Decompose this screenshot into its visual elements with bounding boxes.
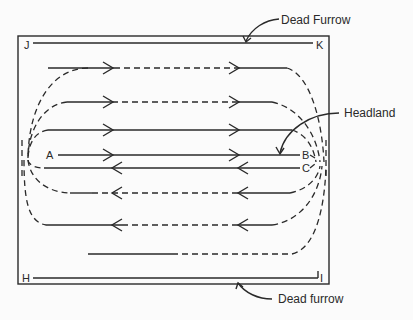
plowing-diagram: J K H I A B [0,0,413,320]
point-label-a: A [46,149,54,161]
field-boundary [18,36,329,284]
headland-label: Headland [344,106,395,120]
pass-row-4-a-to-b [58,149,315,161]
corner-label-k: K [316,39,324,51]
corner-label-i: I [320,272,323,284]
pass-row-6 [28,160,320,199]
pass-row-2 [28,96,320,162]
dead-furrow-bottom-label: Dead furrow [278,292,344,306]
headland-pointer [280,113,339,153]
pass-row-7 [24,160,322,231]
corner-label-h: H [22,272,30,284]
pass-row-5-from-c [28,160,315,174]
pass-row-1 [28,62,324,162]
dead-furrow-top-pointer [246,19,279,41]
point-label-c: C [302,162,310,174]
dead-furrow-top-label: Dead Furrow [281,13,351,27]
point-label-b: B [302,149,309,161]
corner-label-j: J [24,39,30,51]
pass-row-8 [88,166,326,254]
dead-furrow-bottom-pointer [238,283,272,299]
pass-row-3 [28,124,316,162]
